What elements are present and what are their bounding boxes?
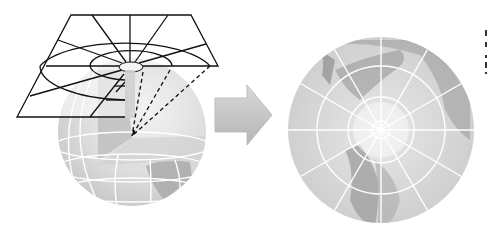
- projection-diagram: Azimuthal (planar) map projection: [0, 0, 488, 234]
- right-arrow-icon: [215, 85, 272, 145]
- azimuthal-map: [288, 37, 474, 226]
- clipped-caption-fragment: [485, 30, 487, 74]
